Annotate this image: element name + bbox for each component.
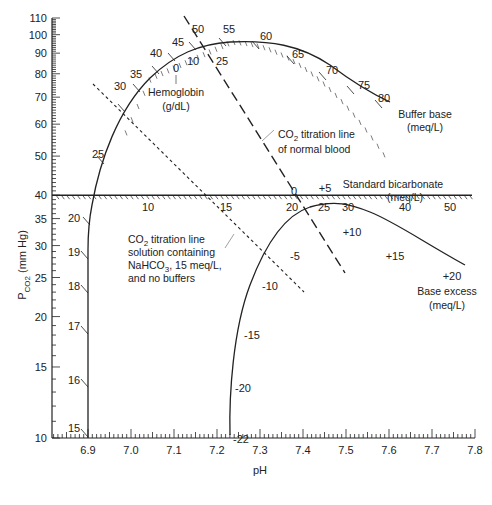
buffer-base-tick: 30	[114, 80, 126, 92]
svg-text:solution containing: solution containing	[128, 246, 215, 258]
base-excess-tick: -5	[290, 250, 300, 262]
buffer-base-tick: 25	[92, 148, 104, 160]
y-tick-label: 70	[35, 91, 47, 103]
base-excess-tick: +20	[443, 270, 462, 282]
buffer-base-tick: 75	[358, 79, 370, 91]
x-tick-label: 7.2	[209, 444, 224, 456]
standard-bicarbonate-unit: (meq/L)	[387, 191, 423, 203]
y-tick-label: 10	[35, 432, 47, 444]
y-tick-label: 100	[29, 29, 47, 41]
axes: 101520253035405060708090100110PCO2 (mm H…	[16, 12, 483, 476]
base-excess-tick: -22	[233, 433, 249, 445]
base-excess-tick: -20	[235, 382, 251, 394]
base-excess-unit: (meq/L)	[429, 299, 465, 311]
y-tick-label: 40	[35, 189, 47, 201]
buffer-base-tick: 16	[68, 374, 80, 386]
x-tick-label: 7.0	[123, 444, 138, 456]
buffer-base-tick: 45	[172, 36, 184, 48]
buffer-base-label: Buffer base	[398, 108, 452, 120]
base-excess-label: Base excess	[417, 285, 477, 297]
base-excess-curve	[230, 203, 465, 435]
buffer-base-tick: 17	[68, 320, 80, 332]
buffer-base-tick: 65	[292, 48, 304, 60]
x-tick-label: 7.6	[381, 444, 396, 456]
x-tick-label: 6.9	[80, 444, 95, 456]
buffer-base-tick: 80	[378, 92, 390, 104]
buffer-base-tick: 19	[68, 246, 80, 258]
nomogram-chart: 101520253035405060708090100110PCO2 (mm H…	[0, 0, 492, 505]
standard-bicarbonate-tick: 50	[444, 201, 456, 213]
buffer-base-tick: 20	[68, 212, 80, 224]
standard-bicarbonate-tick: 10	[142, 201, 154, 213]
base-excess-tick: -15	[244, 329, 260, 341]
y-tick-label: 80	[35, 68, 47, 80]
x-tick-label: 7.1	[166, 444, 181, 456]
svg-text:and no buffers: and no buffers	[128, 272, 195, 284]
base-excess-tick: 0	[291, 185, 297, 197]
buffer-base-tick: 40	[150, 47, 162, 59]
y-tick-label: 50	[35, 150, 47, 162]
standard-bicarbonate-label: Standard bicarbonate	[343, 178, 444, 190]
standard-bicarbonate-tick: 20	[286, 201, 298, 213]
buffer-base-tick: 35	[130, 68, 142, 80]
y-tick-label: 15	[35, 361, 47, 373]
base-excess-tick: +5	[319, 182, 332, 194]
buffer-base-tick: 60	[260, 30, 272, 42]
y-tick-label: 90	[35, 47, 47, 59]
x-tick-label: 7.8	[467, 444, 482, 456]
base-excess-tick: -10	[262, 280, 278, 292]
buffer-base-tick: 15	[68, 422, 80, 434]
y-tick-label: 25	[35, 272, 47, 284]
x-tick-label: 7.3	[252, 444, 267, 456]
hemoglobin-tick: 10	[187, 55, 199, 67]
y-tick-label: 30	[35, 240, 47, 252]
svg-text:of normal blood: of normal blood	[278, 143, 351, 155]
base-excess-tick: +15	[386, 250, 405, 262]
x-axis-label: pH	[253, 464, 267, 476]
y-tick-label: 20	[35, 311, 47, 323]
hemoglobin-label: Hemoglobin	[148, 86, 204, 98]
y-axis-label: PCO2 (mm Hg)	[16, 230, 32, 300]
hemoglobin-tick: 0	[173, 62, 179, 74]
buffer-base-tick: 70	[326, 64, 338, 76]
hemoglobin-unit: (g/dL)	[162, 100, 189, 112]
x-tick-label: 7.4	[295, 444, 310, 456]
hemoglobin-tick: 25	[216, 55, 228, 67]
standard-bicarbonate-tick: 15	[220, 201, 232, 213]
standard-bicarbonate-tick: 30	[342, 201, 354, 213]
y-tick-label: 35	[35, 213, 47, 225]
buffer-base-tick: 55	[223, 23, 235, 35]
base-excess-tick: +10	[343, 226, 362, 238]
buffer-base-tick: 50	[192, 23, 204, 35]
normal-blood-annotation: CO2 titration line	[278, 128, 355, 143]
y-tick-label: 60	[35, 118, 47, 130]
x-tick-label: 7.7	[424, 444, 439, 456]
y-tick-label: 110	[29, 12, 47, 24]
standard-bicarbonate-tick: 25	[318, 201, 330, 213]
buffer-base-tick: 18	[68, 280, 80, 292]
x-tick-label: 7.5	[338, 444, 353, 456]
buffer-base-unit: (meq/L)	[407, 121, 443, 133]
labels: 10152025304050Standard bicarbonate(meq/L…	[68, 23, 477, 445]
